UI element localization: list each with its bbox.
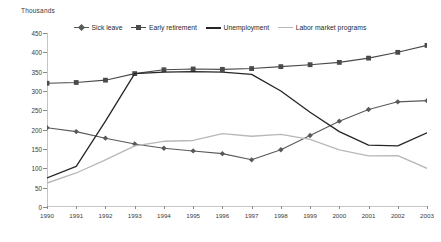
y-axis-tick-label: 200 [31, 126, 42, 133]
x-axis-tick-label: 1993 [128, 212, 142, 219]
legend-item-early-retirement[interactable]: Early retirement [131, 24, 196, 32]
x-axis-tick-label: 1996 [215, 212, 229, 219]
x-axis-labels: 1990199119921993199419951996199719981999… [0, 212, 441, 226]
data-point-early-retirement [74, 80, 79, 85]
x-axis-tick-label: 1991 [69, 212, 83, 219]
data-point-sick-leave [307, 133, 312, 138]
data-point-early-retirement [308, 62, 313, 67]
data-point-early-retirement [249, 66, 254, 71]
data-point-sick-leave [395, 99, 400, 104]
legend-label-early-retirement: Early retirement [149, 24, 197, 31]
data-point-early-retirement [337, 60, 342, 65]
y-axis-tick-label: 450 [31, 30, 42, 37]
y-axis-tick-label: 400 [31, 49, 42, 56]
legend-label-unemployment: Unemployment [223, 24, 269, 31]
x-axis-tick-label: 2000 [332, 212, 346, 219]
y-axis-tick-label: 150 [31, 146, 42, 153]
series-early-retirement [47, 43, 427, 86]
series-line-early-retirement [47, 45, 427, 83]
data-point-early-retirement [425, 43, 427, 48]
x-axis-tick-label: 1994 [157, 212, 171, 219]
x-axis-tick-mark [427, 206, 428, 209]
x-axis-tick-label: 2003 [420, 212, 434, 219]
x-axis-tick-label: 1999 [303, 212, 317, 219]
data-point-early-retirement [366, 56, 371, 61]
y-axis-labels: 050100150200250300350400450 [0, 28, 47, 210]
x-axis-tick-label: 1998 [274, 212, 288, 219]
data-point-sick-leave [47, 125, 50, 130]
data-point-early-retirement [47, 81, 49, 86]
legend-label-labor-market-programs: Labor market programs [296, 24, 367, 31]
y-axis-tick-label: 100 [31, 165, 42, 172]
y-axis-tick-label: 350 [31, 68, 42, 75]
data-point-sick-leave [278, 147, 283, 152]
y-axis-tick-label: 50 [35, 184, 42, 191]
data-point-sick-leave [103, 135, 108, 140]
series-labor-market-programs [47, 134, 427, 184]
legend-item-unemployment[interactable]: Unemployment [206, 24, 269, 32]
data-point-sick-leave [424, 98, 427, 103]
chart-container: Thousands Sick leave Early retirement Un… [0, 0, 441, 242]
series-line-labor-market-programs [47, 134, 427, 184]
data-point-early-retirement [278, 64, 283, 69]
data-point-sick-leave [220, 151, 225, 156]
y-axis-tick-label: 300 [31, 88, 42, 95]
x-axis-tick-label: 1992 [99, 212, 113, 219]
plot-area [47, 33, 427, 207]
y-axis-tick-label: 250 [31, 107, 42, 114]
data-point-sick-leave [161, 146, 166, 151]
data-point-sick-leave [190, 148, 195, 153]
data-point-early-retirement [395, 50, 400, 55]
chart-legend: Sick leave Early retirement Unemployment… [74, 22, 404, 33]
x-axis-tick-label: 1997 [245, 212, 259, 219]
x-axis-tick-label: 2001 [362, 212, 376, 219]
data-point-sick-leave [337, 118, 342, 123]
y-axis-tick-label: 0 [38, 204, 42, 211]
legend-label-sick-leave: Sick leave [92, 24, 123, 31]
series-line-unemployment [47, 72, 427, 178]
data-point-early-retirement [103, 78, 108, 83]
legend-item-labor-market-programs[interactable]: Labor market programs [278, 24, 366, 32]
legend-swatch-sick-leave-icon [74, 24, 89, 32]
data-point-sick-leave [366, 107, 371, 112]
data-point-early-retirement [220, 67, 225, 72]
x-axis-tick-label: 1990 [40, 212, 54, 219]
series-unemployment [47, 72, 427, 178]
legend-swatch-early-retirement-icon [131, 24, 146, 32]
legend-item-sick-leave[interactable]: Sick leave [74, 24, 122, 32]
x-axis-tick-label: 2002 [391, 212, 405, 219]
y-axis-unit-label: Thousands [21, 7, 55, 14]
series-sick-leave [47, 98, 427, 163]
data-point-early-retirement [191, 67, 196, 72]
legend-swatch-labor-market-programs-icon [278, 24, 293, 32]
data-point-sick-leave [249, 157, 254, 162]
x-axis-tick-label: 1995 [186, 212, 200, 219]
legend-swatch-unemployment-icon [206, 24, 221, 32]
data-point-sick-leave [74, 129, 79, 134]
